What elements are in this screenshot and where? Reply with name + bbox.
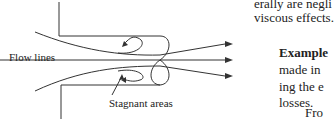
text-line: erally are negli (254, 0, 332, 10)
text-line: Fro (305, 106, 323, 119)
example-heading: Example (279, 46, 328, 59)
text-line: made in (279, 63, 321, 76)
body-text-column: erally are negli viscous effects. Exampl… (0, 0, 335, 121)
text-line: ing the e (279, 80, 324, 93)
text-line: viscous effects. (254, 11, 334, 24)
